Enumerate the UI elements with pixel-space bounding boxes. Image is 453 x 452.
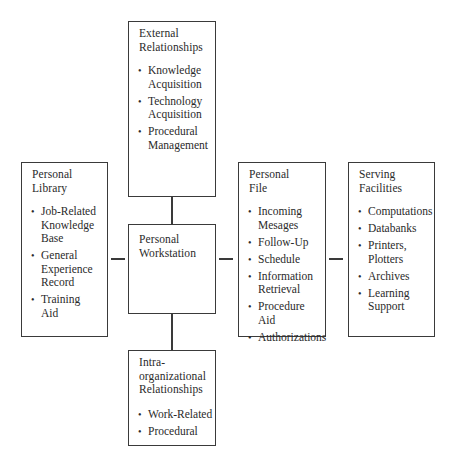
external-relationships-list: Knowledge Acquisition Technology Acquisi… bbox=[129, 64, 208, 156]
serving-facilities-title: Serving Facilities bbox=[359, 168, 402, 195]
intra-organizational-relationships-title: Intra- organizational Relationships bbox=[139, 356, 206, 397]
connector-center-bottom bbox=[171, 314, 173, 350]
serving-facilities-list: Computations Databanks Printers, Plotter… bbox=[349, 205, 433, 317]
list-item: Printers, Plotters bbox=[349, 239, 433, 266]
personal-workstation-title: Personal Workstation bbox=[139, 233, 196, 260]
personal-file-list: Incoming Mesages Follow-Up Schedule Info… bbox=[239, 205, 326, 348]
list-item: Procedural bbox=[129, 425, 212, 439]
list-item: General Experience Record bbox=[22, 249, 96, 290]
list-item: Information Retrieval bbox=[239, 270, 326, 297]
connector-top-center bbox=[171, 197, 173, 224]
list-item: Training Aid bbox=[22, 293, 96, 320]
list-item: Computations bbox=[349, 205, 433, 219]
list-item: Follow-Up bbox=[239, 236, 326, 250]
intra-organizational-relationships-list: Work-Related Procedural bbox=[129, 408, 212, 442]
list-item: Work-Related bbox=[129, 408, 212, 422]
connector-right-farright bbox=[329, 258, 343, 260]
connector-center-right bbox=[219, 258, 233, 260]
list-item: Job-Related Knowledge Base bbox=[22, 205, 96, 246]
list-item: Technology Acquisition bbox=[129, 95, 208, 122]
personal-library-title: Personal Library bbox=[32, 168, 72, 195]
list-item: Learning Support bbox=[349, 287, 433, 314]
list-item: Databanks bbox=[349, 222, 433, 236]
connector-left-center bbox=[111, 258, 125, 260]
list-item: Schedule bbox=[239, 253, 326, 267]
intra-organizational-relationships-box: Intra- organizational Relationships Work… bbox=[128, 350, 216, 446]
list-item: Procedure Aid bbox=[239, 300, 326, 327]
personal-workstation-box: Personal Workstation bbox=[128, 224, 216, 314]
list-item: Procedural Management bbox=[129, 125, 208, 152]
list-item: Incoming Mesages bbox=[239, 205, 326, 232]
personal-file-title: Personal File bbox=[249, 168, 289, 195]
external-relationships-title: External Relationships bbox=[139, 27, 203, 54]
external-relationships-box: External Relationships Knowledge Acquisi… bbox=[128, 21, 216, 197]
serving-facilities-box: Serving Facilities Computations Databank… bbox=[348, 162, 435, 337]
list-item: Knowledge Acquisition bbox=[129, 64, 208, 91]
personal-library-box: Personal Library Job-Related Knowledge B… bbox=[21, 162, 108, 337]
list-item: Archives bbox=[349, 270, 433, 284]
personal-library-list: Job-Related Knowledge Base General Exper… bbox=[22, 205, 96, 324]
personal-file-box: Personal File Incoming Mesages Follow-Up… bbox=[238, 162, 326, 337]
list-item: Authorizations bbox=[239, 331, 326, 345]
